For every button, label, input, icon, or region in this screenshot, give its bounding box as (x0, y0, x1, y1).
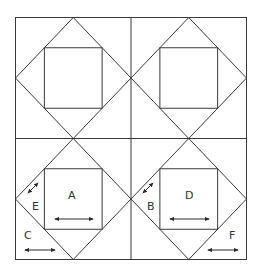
label-c: C (24, 229, 32, 242)
label-f: F (229, 229, 235, 242)
center-square-top-left (44, 48, 102, 109)
quilt-diagram: A E C D B F (0, 0, 261, 278)
center-square-top-right (160, 48, 218, 109)
label-d: D (185, 189, 193, 202)
label-e: E (32, 200, 39, 213)
diamond-top-right (131, 18, 247, 139)
diamond-top-left (16, 18, 132, 139)
label-b: B (147, 200, 155, 213)
label-a: A (68, 189, 76, 202)
